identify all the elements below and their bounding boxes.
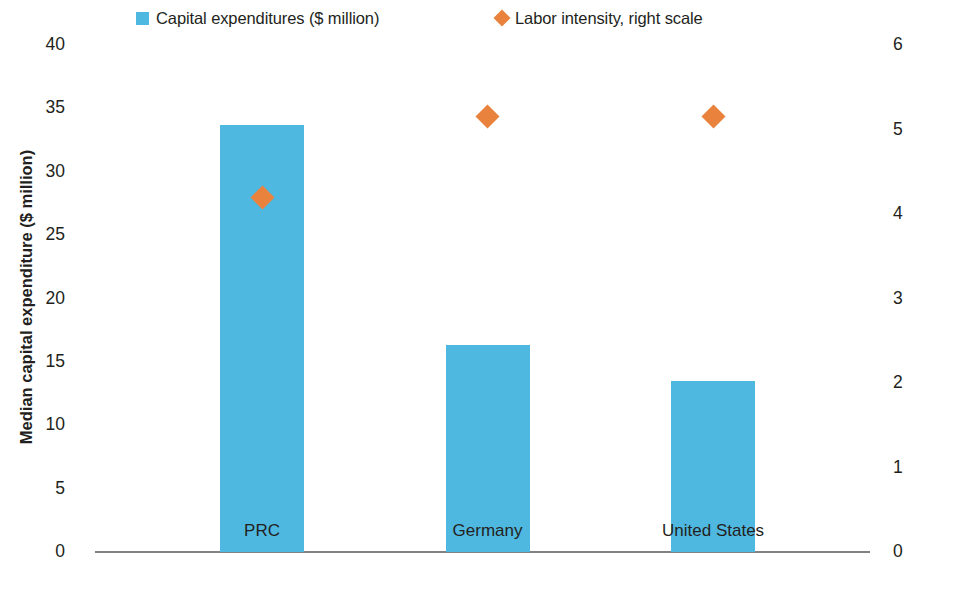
right-tick-2: 2 (893, 374, 903, 392)
legend-square-icon (136, 12, 149, 25)
left-axis-title: Median capital expenditure ($ million) (17, 137, 36, 457)
category-label-united-states: United States (662, 521, 764, 541)
marker-germany (476, 105, 500, 129)
right-tick-0: 0 (893, 543, 903, 561)
plot-area (95, 45, 870, 552)
right-tick-4: 4 (893, 205, 903, 223)
left-tick-10: 10 (46, 417, 65, 435)
legend-item-capital-expenditures: Capital expenditures ($ million) (136, 10, 379, 27)
left-tick-15: 15 (46, 353, 65, 371)
left-tick-30: 30 (46, 163, 65, 181)
right-tick-3: 3 (893, 290, 903, 308)
legend-diamond-icon (494, 10, 511, 27)
right-tick-5: 5 (893, 121, 903, 139)
left-tick-5: 5 (55, 480, 65, 498)
right-tick-6: 6 (893, 36, 903, 54)
legend-label-labor-intensity: Labor intensity, right scale (515, 10, 703, 27)
left-axis-title-text: Median capital expenditure ($ million) (17, 137, 36, 457)
left-tick-40: 40 (46, 36, 65, 54)
legend-item-labor-intensity: Labor intensity, right scale (496, 10, 703, 27)
left-tick-20: 20 (46, 290, 65, 308)
left-tick-35: 35 (46, 100, 65, 118)
left-tick-25: 25 (46, 226, 65, 244)
chart-legend: Capital expenditures ($ million) Labor i… (0, 10, 954, 38)
chart-container: Capital expenditures ($ million) Labor i… (0, 0, 954, 593)
legend-label-capital-expenditures: Capital expenditures ($ million) (156, 10, 379, 27)
category-label-prc: PRC (244, 521, 280, 541)
left-tick-0: 0 (55, 543, 65, 561)
marker-united-states (701, 105, 725, 129)
category-label-germany: Germany (453, 521, 523, 541)
right-tick-1: 1 (893, 459, 903, 477)
